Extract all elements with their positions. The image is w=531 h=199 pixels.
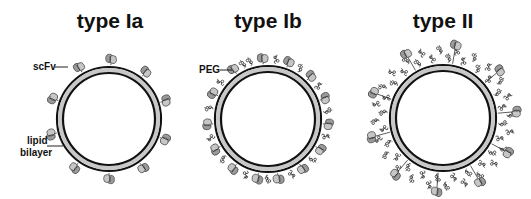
scfv-antibody-icon: [319, 91, 331, 104]
panel-title-type-ib: type Ib: [234, 9, 302, 32]
scfv-antibody-icon: [388, 168, 402, 182]
liposome-type-ii: [366, 40, 522, 197]
label-scfv: scFv: [33, 61, 56, 72]
peg-chain: [401, 68, 407, 75]
scfv-antibody-icon: [106, 54, 117, 64]
liposome-diagram: type Ia type Ib type II scFv lipid bilay…: [0, 0, 531, 199]
peg-chain: [309, 157, 316, 163]
lipid-bilayer: [57, 67, 161, 171]
scfv-antibody-icon: [226, 162, 240, 176]
liposome-type-ib: [202, 53, 334, 185]
peg-chain: [491, 160, 498, 167]
panel-type-ii: type II: [366, 9, 522, 197]
panel-title-type-ia: type Ia: [77, 9, 144, 32]
scfv-antibody-icon: [367, 86, 379, 99]
scfv-antibody-icon: [72, 60, 86, 73]
lipid-bilayer: [390, 65, 496, 171]
peg-chain: [479, 160, 485, 167]
scfv-antibody-icon: [46, 92, 58, 105]
scfv-antibody-icon: [67, 161, 81, 175]
scfv-antibody-icon: [139, 65, 153, 79]
scfv-antibody-icon: [159, 133, 171, 146]
label-bilayer: bilayer: [20, 147, 52, 158]
scfv-antibody-icon: [473, 176, 487, 189]
label-peg: PEG: [199, 64, 220, 75]
scfv-antibody-icon: [208, 143, 221, 157]
scfv-antibody-icon: [399, 47, 413, 60]
scfv-antibody-icon: [202, 119, 212, 131]
scfv-antibody-icon: [502, 146, 515, 160]
scfv-antibody-icon: [282, 55, 295, 67]
scfv-antibody-icon: [324, 119, 334, 131]
peg-chain: [389, 69, 396, 76]
scfv-antibody-icon: [512, 106, 522, 118]
scfv-antibody-icon: [160, 94, 172, 107]
liposome-type-ia: [45, 54, 172, 184]
scfv-antibody-icon: [296, 162, 310, 176]
scfv-antibody-icon: [273, 174, 285, 185]
scfv-antibody-icon: [206, 86, 219, 100]
panel-title-type-ii: type II: [413, 9, 474, 32]
panel-type-ia: type Ia: [45, 9, 172, 184]
peg-chain: [393, 154, 400, 160]
lipid-bilayer: [215, 66, 321, 172]
scfv-antibody-icon: [226, 62, 240, 76]
scfv-antibody-icon: [314, 143, 327, 157]
scfv-antibody-icon: [431, 187, 443, 197]
label-lipid: lipid: [27, 135, 48, 146]
scfv-antibody-icon: [104, 175, 115, 184]
scfv-antibody-icon: [257, 53, 269, 63]
scfv-antibody-icon: [450, 40, 462, 51]
scfv-antibody-icon: [493, 63, 507, 77]
peg-chain: [485, 64, 492, 71]
scfv-antibody-icon: [136, 161, 150, 175]
scfv-antibody-icon: [251, 174, 263, 185]
panel-type-ib: type Ib: [202, 9, 334, 185]
peg-chain: [315, 84, 323, 89]
